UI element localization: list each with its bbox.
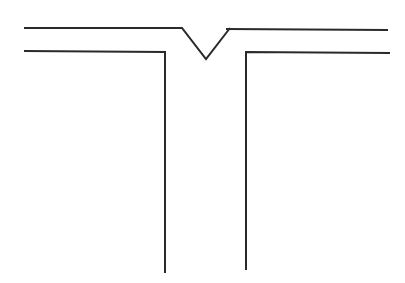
top-edge-left-with-notch (24, 28, 230, 59)
t-junction-diagram (0, 0, 405, 283)
top-edge-right (226, 29, 388, 30)
inner-left-corner (24, 51, 165, 273)
inner-right-corner (246, 52, 390, 270)
